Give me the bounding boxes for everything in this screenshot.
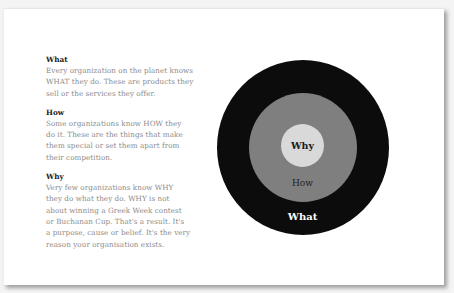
- body-line: do it. These are the things that make: [46, 129, 216, 140]
- body-line: Every organization on the planet knows: [46, 65, 216, 76]
- circle-label-how: How: [270, 178, 335, 188]
- description-column: What Every organization on the planet kn…: [46, 55, 216, 259]
- body-line: them special or set them apart from: [46, 140, 216, 151]
- section-what: What Every organization on the planet kn…: [46, 55, 216, 99]
- body-line: a purpose, cause or belief. It's the ver…: [46, 227, 216, 238]
- body-line: they do what they do. WHY is not: [46, 193, 216, 204]
- body-line: sell or the services they offer.: [46, 88, 216, 99]
- body-line: Very few organizations know WHY: [46, 182, 216, 193]
- circle-label-why: Why: [281, 140, 324, 151]
- body-line: Some organizations know HOW they: [46, 118, 216, 129]
- section-body: Some organizations know HOW they do it. …: [46, 118, 216, 163]
- section-heading: What: [46, 55, 216, 65]
- section-heading: Why: [46, 172, 216, 182]
- body-line: their competition.: [46, 152, 216, 163]
- section-body: Very few organizations know WHY they do …: [46, 182, 216, 250]
- body-line: about winning a Greek Week contest: [46, 205, 216, 216]
- body-line: or Buchanan Cup. That's a result. It's: [46, 216, 216, 227]
- body-line: reason your organisation exists.: [46, 239, 216, 250]
- section-how: How Some organizations know HOW they do …: [46, 108, 216, 163]
- section-heading: How: [46, 108, 216, 118]
- body-line: WHAT they do. These are products they: [46, 76, 216, 87]
- section-body: Every organization on the planet knows W…: [46, 65, 216, 99]
- circle-label-what: What: [265, 211, 340, 222]
- section-why: Why Very few organizations know WHY they…: [46, 172, 216, 250]
